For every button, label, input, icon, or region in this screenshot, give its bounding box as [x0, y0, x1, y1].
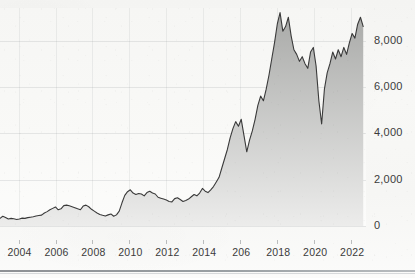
- x-axis-tick-2020: [314, 240, 315, 244]
- x-axis-tick-2016: [240, 240, 241, 244]
- x-axis-tick-2014: [203, 240, 204, 244]
- area-chart-svg: [0, 8, 366, 226]
- x-axis-tick-2004: [19, 240, 20, 244]
- x-axis-label-2010: 2010: [118, 246, 142, 258]
- x-axis-tick-2006: [56, 240, 57, 244]
- gridline-y-0: [0, 226, 366, 227]
- series-area-fill: [0, 13, 363, 226]
- y-axis-label-4000: 4,000: [374, 126, 403, 138]
- x-axis-tick-2012: [166, 240, 167, 244]
- x-axis-label-2012: 2012: [155, 246, 179, 258]
- x-axis-label-2004: 2004: [7, 246, 31, 258]
- x-axis-label-2022: 2022: [340, 246, 364, 258]
- x-axis-tick-2010: [129, 240, 130, 244]
- y-axis-label-6000: 6,000: [374, 80, 403, 92]
- y-axis-label-8000: 8,000: [374, 34, 403, 46]
- x-axis-label-2008: 2008: [81, 246, 105, 258]
- x-axis-label-2020: 2020: [303, 246, 327, 258]
- y-axis-label-0: 0: [374, 219, 380, 231]
- x-axis-label-2018: 2018: [266, 246, 290, 258]
- x-axis-label-2006: 2006: [44, 246, 68, 258]
- x-axis-tick-2022: [351, 240, 352, 244]
- page-bottom-rule-secondary: [0, 273, 415, 274]
- chart-screenshot: 02,0004,0006,0008,000 200420062008201020…: [0, 0, 415, 278]
- plot-area: [0, 8, 366, 226]
- x-axis-tick-2018: [277, 240, 278, 244]
- y-axis-label-2000: 2,000: [374, 173, 403, 185]
- x-axis-label-2014: 2014: [192, 246, 216, 258]
- x-axis-label-2016: 206: [232, 246, 250, 258]
- x-axis-tick-2008: [92, 240, 93, 244]
- page-bottom-rule: [0, 270, 415, 272]
